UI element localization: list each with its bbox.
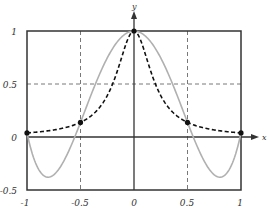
node-marker bbox=[131, 28, 136, 33]
ytick-label: -0.5 bbox=[0, 186, 17, 196]
node-marker bbox=[238, 130, 243, 135]
xtick-label: -0.5 bbox=[71, 198, 89, 208]
xtick-label: -1 bbox=[21, 198, 30, 208]
chart: -1 -0.5 0 0.5 1 -0.5 0 0.5 1 x y bbox=[0, 0, 269, 212]
ytick-label: 0.5 bbox=[3, 80, 18, 90]
x-axis-arrow-icon bbox=[251, 134, 259, 140]
y-axis bbox=[131, 11, 137, 190]
ytick-label: 1 bbox=[11, 27, 17, 37]
ytick-label: 0 bbox=[11, 133, 17, 143]
y-axis-arrow-icon bbox=[131, 11, 137, 19]
node-marker bbox=[24, 130, 29, 135]
y-axis-label: y bbox=[131, 2, 137, 11]
x-axis bbox=[27, 134, 259, 140]
xtick-label: 0.5 bbox=[180, 198, 195, 208]
xtick-label: 0 bbox=[131, 198, 137, 208]
node-marker bbox=[185, 120, 190, 125]
x-axis-label: x bbox=[262, 133, 267, 142]
xtick-label: 1 bbox=[237, 198, 243, 208]
node-marker bbox=[78, 120, 83, 125]
